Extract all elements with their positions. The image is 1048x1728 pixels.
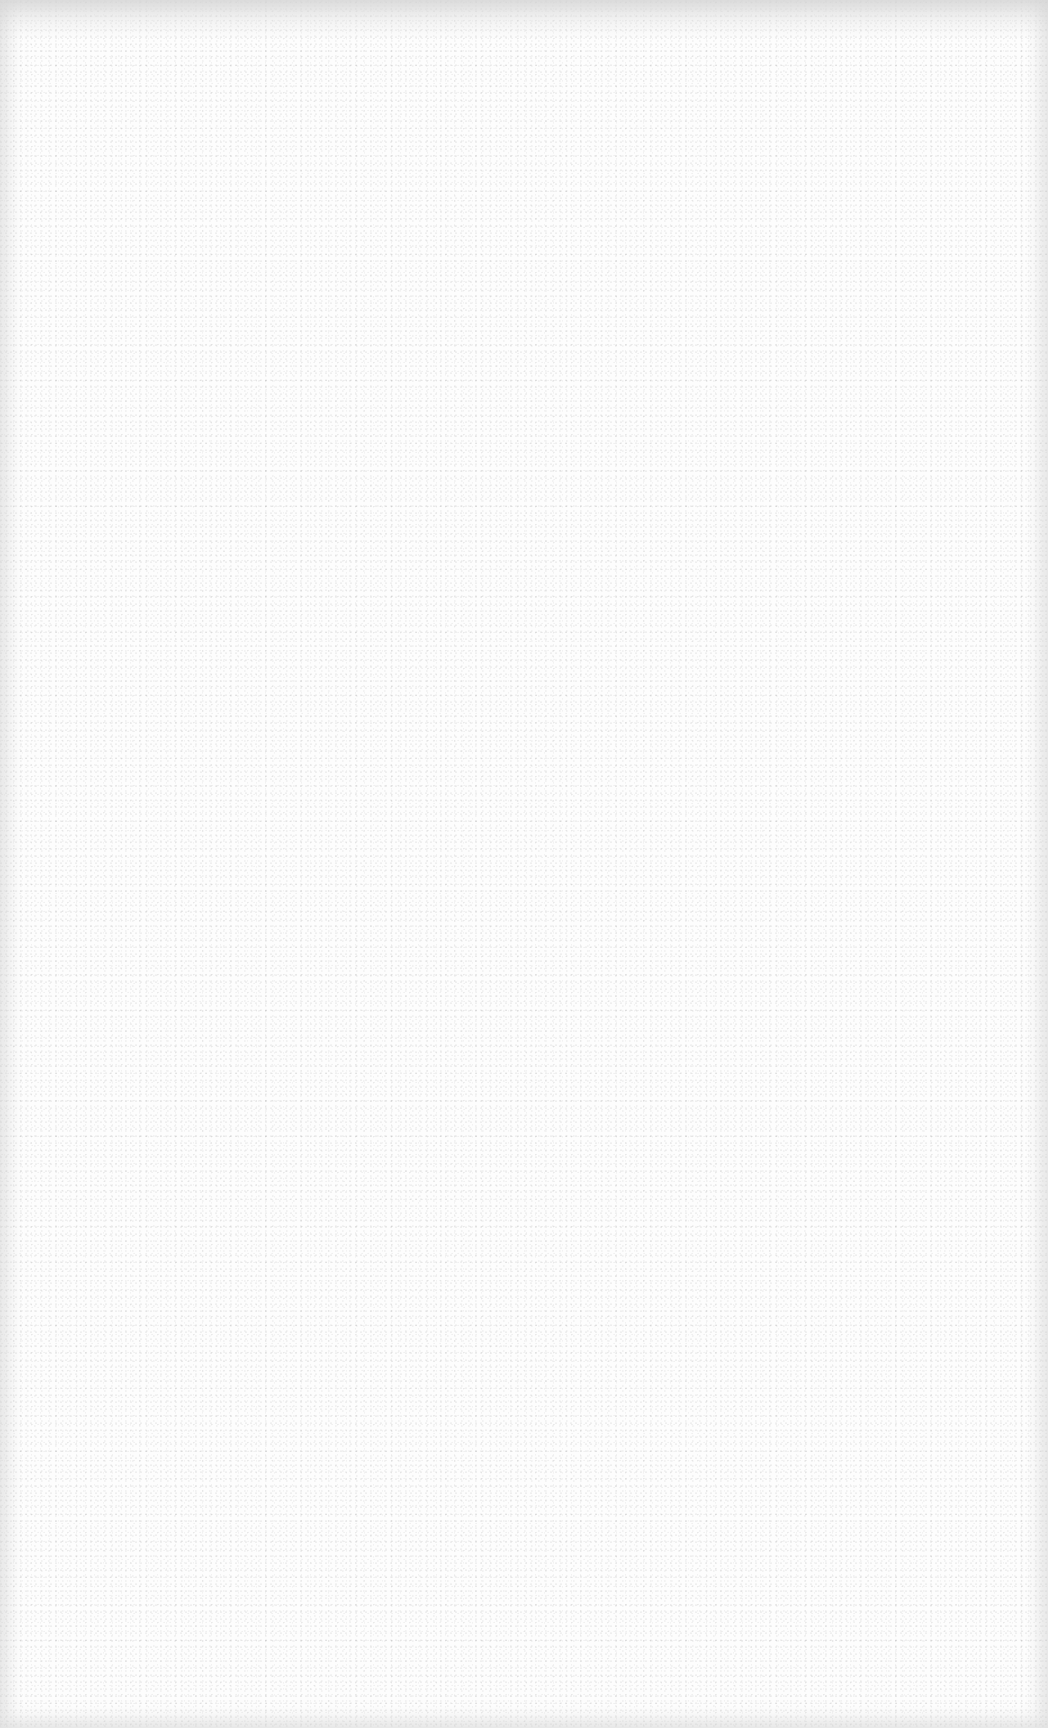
blank-canvas: [0, 0, 1048, 1728]
top-edge-shading: [0, 0, 1048, 40]
noise-texture: [0, 0, 1048, 1728]
